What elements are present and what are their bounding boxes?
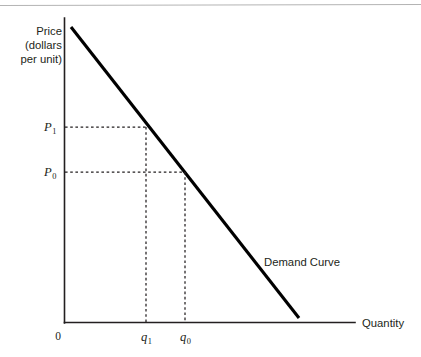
y-tick-label-p1-var: P (43, 120, 52, 134)
demand-curve-figure: Price (dollars per unit) P1 P0 0 q1 q0 D… (0, 0, 421, 357)
y-axis-title-line-1: Price (36, 25, 62, 37)
y-axis-title-line-2: (dollars (25, 39, 62, 51)
y-tick-label-p1: P1 (43, 120, 56, 136)
origin-label: 0 (55, 330, 61, 342)
x-tick-label-q1: q1 (141, 330, 152, 346)
demand-curve-label: Demand Curve (264, 256, 340, 268)
y-tick-label-p1-subscript: 1 (52, 127, 56, 136)
x-tick-label-q1-var: q (141, 330, 147, 344)
x-axis-title: Quantity (362, 317, 404, 329)
x-tick-label-q1-subscript: 1 (148, 337, 152, 346)
x-tick-label-q0-var: q (180, 330, 186, 344)
y-tick-label-p0-subscript: 0 (52, 172, 56, 181)
y-tick-label-p0-var: P (43, 165, 52, 179)
y-axis-title-line-3: per unit) (21, 53, 63, 65)
x-tick-label-q0: q0 (180, 330, 191, 346)
page-rule-divider (0, 5, 421, 6)
y-tick-label-p0: P0 (43, 165, 56, 181)
x-tick-label-q0-subscript: 0 (187, 337, 191, 346)
